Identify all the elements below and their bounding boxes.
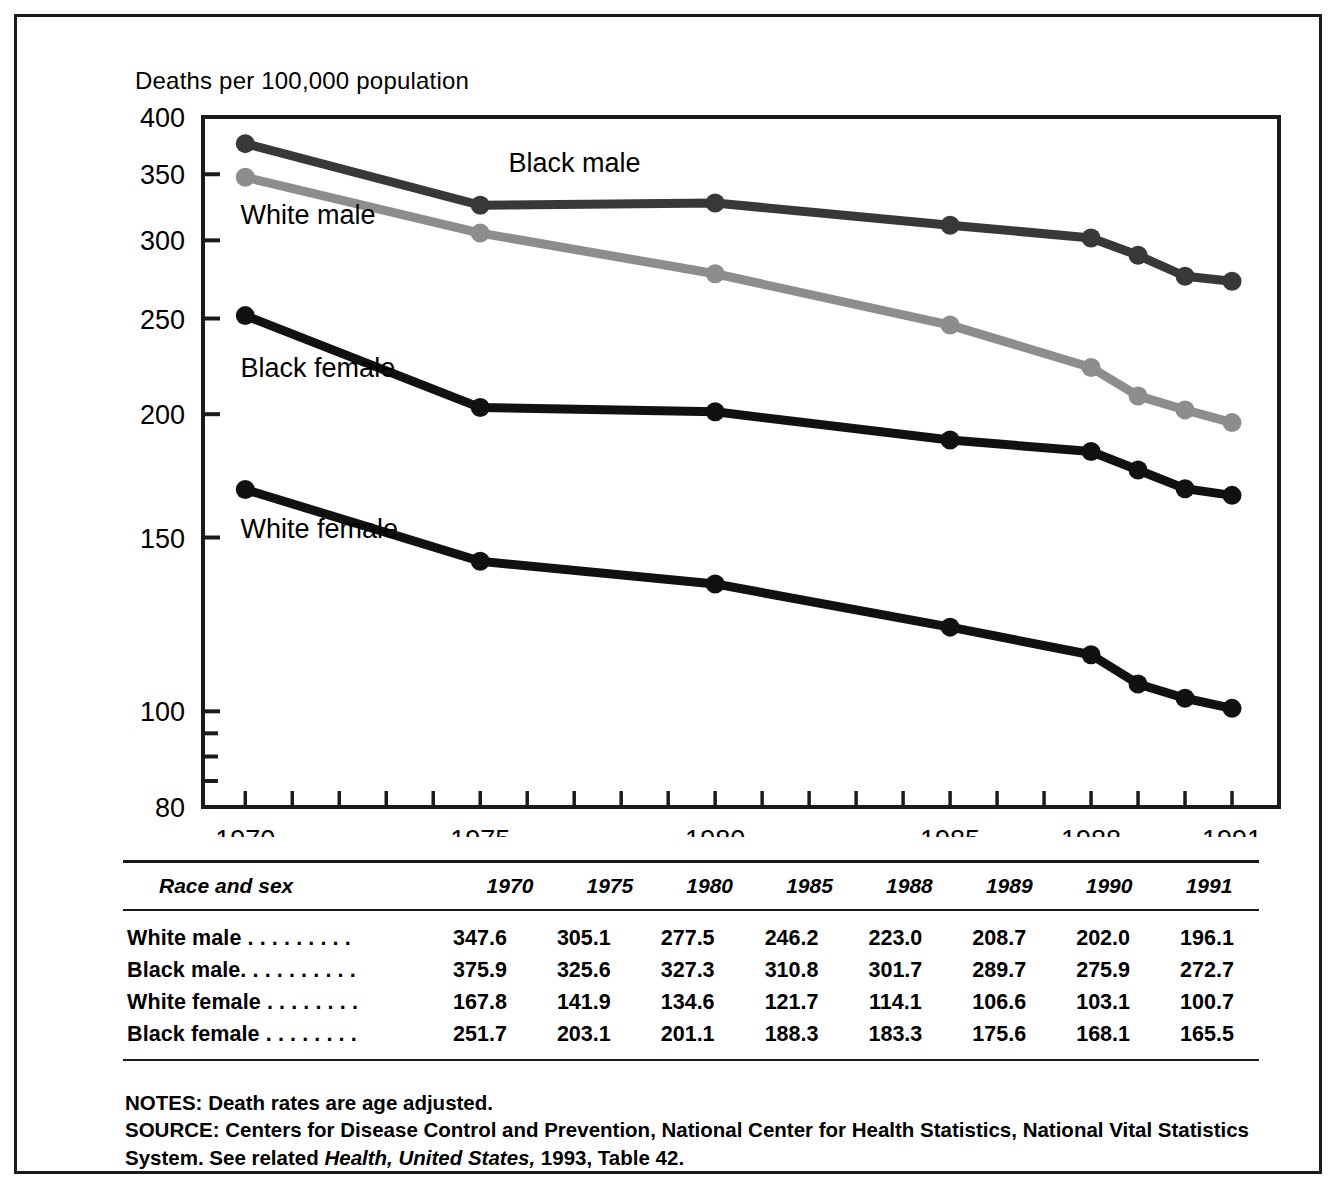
data-point-1989 (1129, 246, 1148, 265)
cell-white-female-1991: 100.7 (1155, 986, 1259, 1018)
data-point-1980 (706, 574, 725, 593)
row-label-white-male: White male . . . . . . . . . (123, 922, 428, 954)
figure-notes: NOTES: Death rates are age adjusted. SOU… (125, 1089, 1285, 1171)
table-header-1990: 1990 (1059, 863, 1159, 909)
data-point-1980 (706, 402, 725, 421)
data-table-block: Race and sex 1970 1975 1980 1985 1988 19… (123, 860, 1259, 1061)
y-tick-label-100: 100 (140, 697, 185, 727)
series-label-black-male: Black male (508, 148, 640, 178)
series-line (245, 177, 1232, 422)
cell-white-male-1991: 196.1 (1155, 922, 1259, 954)
source-line: SOURCE: Centers for Disease Control and … (125, 1116, 1285, 1171)
y-tick-label-200: 200 (140, 400, 185, 430)
cell-black-female-1970: 251.7 (428, 1018, 532, 1050)
cell-white-male-1988: 223.0 (843, 922, 947, 954)
data-point-1990 (1176, 400, 1195, 419)
x-tick-label-1985: 1985 (920, 825, 980, 837)
row-label-black-female: Black female . . . . . . . . (123, 1018, 428, 1050)
source-italic-title: Health, United States, (324, 1146, 535, 1169)
row-label-black-male: Black male. . . . . . . . . . (123, 954, 428, 986)
chart-plot-area: 4003503002502001501008019701975198019851… (17, 17, 1325, 837)
cell-black-female-1980: 201.1 (636, 1018, 740, 1050)
y-tick-label-80: 80 (155, 793, 185, 823)
y-tick-label-250: 250 (140, 305, 185, 335)
data-point-1990 (1176, 267, 1195, 286)
data-point-1980 (706, 264, 725, 283)
table-header-1989: 1989 (959, 863, 1059, 909)
data-table-body: White male . . . . . . . . . 347.6 305.1… (123, 922, 1259, 1050)
data-point-1975 (471, 398, 490, 417)
line-chart: 4003503002502001501008019701975198019851… (17, 17, 1325, 837)
x-tick-label-1975: 1975 (450, 825, 510, 837)
table-row: White male . . . . . . . . . 347.6 305.1… (123, 922, 1259, 954)
table-header-race-and-sex: Race and sex (123, 863, 460, 909)
x-tick-label-1988: 1988 (1061, 825, 1121, 837)
cell-black-male-1980: 327.3 (636, 954, 740, 986)
cell-white-female-1985: 121.7 (740, 986, 844, 1018)
cell-white-female-1989: 106.6 (947, 986, 1051, 1018)
data-point-1991 (1223, 486, 1242, 505)
series-line (245, 316, 1232, 496)
cell-black-female-1991: 165.5 (1155, 1018, 1259, 1050)
data-point-1970 (236, 134, 255, 153)
table-row: White female . . . . . . . . 167.8 141.9… (123, 986, 1259, 1018)
series-label-white-female: White female (241, 514, 399, 544)
source-prefix: SOURCE: Centers for Disease Control and … (125, 1118, 1249, 1168)
cell-black-female-1990: 168.1 (1051, 1018, 1155, 1050)
series-label-white-male: White male (241, 200, 376, 230)
table-row: Black female . . . . . . . . 251.7 203.1… (123, 1018, 1259, 1050)
series-label-black-female: Black female (241, 353, 396, 383)
data-point-1991 (1223, 413, 1242, 432)
notes-line: NOTES: Death rates are age adjusted. (125, 1089, 1285, 1116)
cell-white-female-1988: 114.1 (843, 986, 947, 1018)
data-point-1975 (471, 224, 490, 243)
table-header-row: Race and sex 1970 1975 1980 1985 1988 19… (123, 863, 1259, 909)
data-point-1975 (471, 552, 490, 571)
data-point-1989 (1129, 460, 1148, 479)
cell-white-male-1975: 305.1 (532, 922, 636, 954)
cell-white-male-1989: 208.7 (947, 922, 1051, 954)
table-header-1970: 1970 (460, 863, 560, 909)
data-point-1970 (236, 480, 255, 499)
cell-white-male-1985: 246.2 (740, 922, 844, 954)
table-header-1991: 1991 (1159, 863, 1259, 909)
data-point-1975 (471, 196, 490, 215)
table-header-1975: 1975 (560, 863, 660, 909)
data-point-1970 (236, 306, 255, 325)
x-tick-label-1970: 1970 (215, 825, 275, 837)
cell-white-male-1990: 202.0 (1051, 922, 1155, 954)
figure-panel: Deaths per 100,000 population 4003503002… (14, 14, 1322, 1174)
table-header-1980: 1980 (660, 863, 760, 909)
data-point-1985 (941, 431, 960, 450)
cell-black-female-1985: 188.3 (740, 1018, 844, 1050)
cell-white-male-1980: 277.5 (636, 922, 740, 954)
table-header-1988: 1988 (859, 863, 959, 909)
data-table: Race and sex 1970 1975 1980 1985 1988 19… (123, 863, 1259, 909)
data-point-1970 (236, 168, 255, 187)
cell-black-female-1975: 203.1 (532, 1018, 636, 1050)
cell-black-male-1970: 375.9 (428, 954, 532, 986)
y-tick-label-400: 400 (140, 103, 185, 133)
data-point-1985 (941, 316, 960, 335)
data-point-1980 (706, 193, 725, 212)
cell-white-female-1975: 141.9 (532, 986, 636, 1018)
y-tick-label-150: 150 (140, 524, 185, 554)
cell-black-male-1991: 272.7 (1155, 954, 1259, 986)
x-tick-label-1991: 1991 (1202, 825, 1262, 837)
row-label-white-female: White female . . . . . . . . (123, 986, 428, 1018)
data-point-1988 (1082, 358, 1101, 377)
data-point-1989 (1129, 386, 1148, 405)
cell-black-male-1988: 301.7 (843, 954, 947, 986)
y-tick-label-350: 350 (140, 160, 185, 190)
data-point-1991 (1223, 272, 1242, 291)
data-point-1989 (1129, 674, 1148, 693)
data-point-1985 (941, 216, 960, 235)
source-suffix: 1993, Table 42. (535, 1146, 684, 1169)
cell-black-male-1990: 275.9 (1051, 954, 1155, 986)
table-row: Black male. . . . . . . . . . 375.9 325.… (123, 954, 1259, 986)
cell-black-male-1975: 325.6 (532, 954, 636, 986)
cell-white-male-1970: 347.6 (428, 922, 532, 954)
data-point-1988 (1082, 442, 1101, 461)
y-tick-label-300: 300 (140, 226, 185, 256)
cell-black-male-1985: 310.8 (740, 954, 844, 986)
